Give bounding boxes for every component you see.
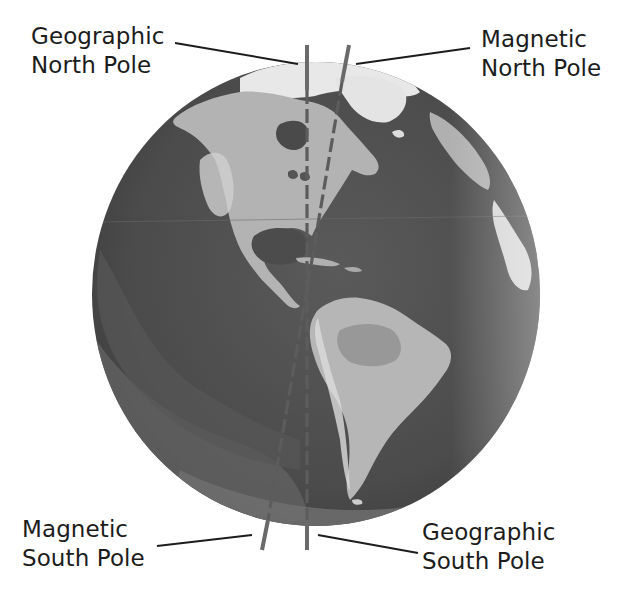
label-line-1: Geographic: [422, 518, 555, 547]
label-line-1: Geographic: [31, 22, 164, 51]
label-magnetic-south-pole: Magnetic South Pole: [22, 515, 145, 573]
label-line-1: Magnetic: [22, 515, 145, 544]
label-line-2: South Pole: [422, 547, 555, 576]
label-line-2: North Pole: [31, 51, 164, 80]
label-line-2: North Pole: [481, 54, 601, 83]
leader-magnetic-north: [356, 48, 470, 64]
label-geographic-south-pole: Geographic South Pole: [422, 518, 555, 576]
leader-magnetic-south: [157, 535, 252, 546]
globe: [80, 61, 540, 560]
leader-geographic-north: [175, 43, 298, 64]
label-geographic-north-pole: Geographic North Pole: [31, 22, 164, 80]
label-line-1: Magnetic: [481, 25, 601, 54]
leader-geographic-south: [318, 535, 418, 553]
magnetic-axis-bottom: [262, 520, 268, 550]
label-line-2: South Pole: [22, 544, 145, 573]
label-magnetic-north-pole: Magnetic North Pole: [481, 25, 601, 83]
